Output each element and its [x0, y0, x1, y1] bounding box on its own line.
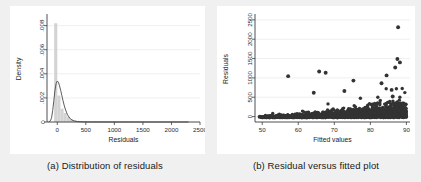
- axes-a: [47, 14, 200, 122]
- svg-text:50: 50: [259, 126, 266, 133]
- x-axis-title-a: Residuals: [109, 136, 139, 143]
- svg-text:70: 70: [331, 126, 338, 133]
- svg-text:1000: 1000: [107, 126, 121, 133]
- svg-text:2000: 2000: [165, 126, 179, 133]
- figure-container: 0.002.004.006.00805001000150020002500 Re…: [0, 0, 421, 182]
- histogram-chart: 0.002.004.006.00805001000150020002500 Re…: [10, 6, 205, 154]
- svg-text:2500: 2500: [247, 12, 254, 26]
- svg-text:80: 80: [367, 126, 374, 133]
- svg-text:0: 0: [39, 120, 46, 124]
- svg-text:2000: 2000: [247, 32, 254, 46]
- svg-text:500: 500: [81, 126, 92, 133]
- caption-b: (b) Residual versus fitted plot: [211, 160, 421, 171]
- panel-distribution-of-residuals: 0.002.004.006.00805001000150020002500 Re…: [0, 0, 210, 182]
- gridlines-a: [47, 26, 200, 122]
- svg-text:500: 500: [247, 92, 254, 103]
- svg-text:.006: .006: [39, 43, 46, 56]
- panel-residual-versus-fitted: 050010001500200025005060708090 Fitted va…: [211, 0, 421, 182]
- svg-text:.008: .008: [39, 19, 46, 32]
- svg-text:90: 90: [403, 126, 410, 133]
- svg-text:1000: 1000: [247, 70, 254, 84]
- svg-text:0: 0: [247, 114, 254, 118]
- histogram-bars: [54, 23, 117, 122]
- svg-text:1500: 1500: [247, 51, 254, 65]
- x-axis-title-b: Fitted values: [313, 136, 352, 143]
- svg-text:.002: .002: [39, 91, 46, 104]
- svg-text:0: 0: [56, 126, 60, 133]
- svg-text:2500: 2500: [193, 126, 205, 133]
- svg-text:60: 60: [295, 126, 302, 133]
- y-axis-title-b: Residuals: [222, 53, 229, 83]
- scatter-chart: 050010001500200025005060708090 Fitted va…: [217, 6, 415, 154]
- plot-area-scatter: 050010001500200025005060708090 Fitted va…: [217, 6, 415, 154]
- svg-text:.004: .004: [39, 67, 46, 80]
- caption-a: (a) Distribution of residuals: [0, 160, 210, 171]
- svg-text:1500: 1500: [136, 126, 150, 133]
- density-curve: [49, 81, 189, 122]
- plot-area-histogram: 0.002.004.006.00805001000150020002500 Re…: [10, 6, 205, 154]
- y-axis-title-a: Density: [15, 57, 23, 80]
